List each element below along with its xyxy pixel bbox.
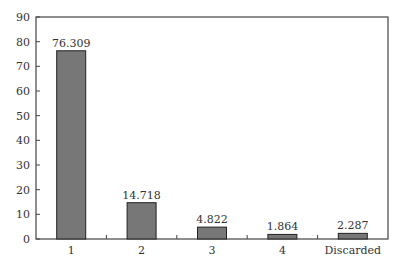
bar-chart: 0102030405060708090 1234Discarded 76.309… [0, 0, 408, 269]
y-tick-label: 30 [16, 159, 30, 172]
x-tick-label: 2 [138, 244, 145, 257]
x-tick-label: 3 [209, 244, 216, 257]
bar-3 [198, 227, 227, 239]
bars: 76.30914.7184.8221.8642.287 [52, 37, 369, 239]
bar-1 [57, 51, 86, 239]
y-tick-label: 0 [23, 233, 30, 246]
y-tick-label: 10 [16, 208, 30, 221]
bar-value-label: 76.309 [52, 37, 91, 50]
x-tick-label: Discarded [325, 244, 382, 257]
bar-value-label: 2.287 [337, 219, 369, 232]
y-tick-label: 40 [16, 134, 30, 147]
bar-4 [268, 234, 297, 239]
plot-border [36, 17, 388, 239]
x-tick-label: 1 [68, 244, 75, 257]
bar-value-label: 1.864 [267, 220, 299, 233]
y-tick-label: 70 [16, 60, 30, 73]
bar-discarded [338, 233, 367, 239]
y-tick-label: 90 [16, 11, 30, 24]
y-tick-label: 60 [16, 85, 30, 98]
bar-2 [127, 203, 156, 239]
y-tick-label: 20 [16, 184, 30, 197]
plot-frame [36, 17, 388, 239]
y-tick-label: 50 [16, 110, 30, 123]
x-tick-label: 4 [279, 244, 286, 257]
bar-value-label: 4.822 [196, 213, 228, 226]
y-tick-label: 80 [16, 36, 30, 49]
bar-value-label: 14.718 [122, 189, 161, 202]
